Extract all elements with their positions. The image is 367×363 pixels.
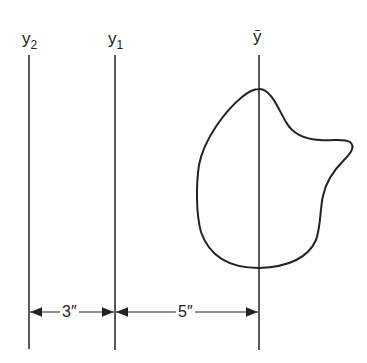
axis-label-y2: y2 <box>22 30 37 47</box>
dimension-label-5in: 5″ <box>176 304 195 320</box>
axis-label-y1: y1 <box>108 30 123 47</box>
area-shape <box>197 89 353 268</box>
axis-label-ybar: ȳ <box>253 28 262 45</box>
dimension-label-3in: 3″ <box>60 304 79 320</box>
